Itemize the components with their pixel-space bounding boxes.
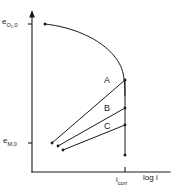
cathodic-curve	[45, 24, 125, 96]
y-axis-label-em: eM,0	[3, 137, 17, 147]
x-axis-title-logi: log i	[143, 174, 158, 182]
anodic-line-b-start-marker	[57, 145, 60, 148]
y-axis-label-em-sub: M,0	[7, 141, 16, 147]
y-axis-label-eo2: eO₂,0	[2, 18, 18, 28]
anodic-line-a-start-marker	[51, 142, 54, 145]
y-axis-label-eo2-sub: O₂,0	[6, 22, 17, 28]
anodic-line-c-start-marker	[62, 149, 65, 152]
x-axis-label-icorr: icorr	[116, 176, 127, 186]
figure-container: eO₂,0 eM,0 icorr log i A B C	[0, 0, 176, 196]
curve-label-a: A	[104, 76, 110, 85]
anodic-line-a	[52, 80, 125, 143]
x-axis-label-icorr-sub: corr	[118, 180, 128, 186]
curve-label-c: C	[104, 122, 111, 131]
curve-label-b: B	[104, 104, 110, 113]
anodic-line-b	[58, 108, 125, 146]
corrosion-line-end-marker	[124, 154, 127, 157]
evans-diagram-plot	[0, 0, 176, 196]
cathodic-curve-start-marker	[44, 23, 47, 26]
y-axis-arrow-icon	[29, 10, 35, 18]
